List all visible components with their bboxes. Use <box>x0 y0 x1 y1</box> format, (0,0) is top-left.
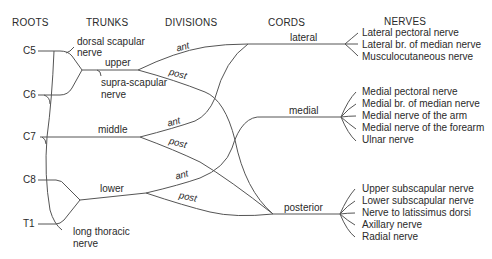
nerve-axillary: Axillary nerve <box>362 219 474 231</box>
nerve-ulnar: Ulnar nerve <box>362 134 484 146</box>
suprascapular-label-1: supra-scapular <box>101 77 167 88</box>
dorsal-scapular-hook <box>66 47 74 53</box>
nerve-medial-forearm: Medial nerve of the forearm <box>362 122 484 134</box>
lower-post-division <box>146 193 273 216</box>
header-nerves: NERVES <box>384 16 426 27</box>
upper-ant-division <box>138 44 248 70</box>
c8-root-line <box>38 180 80 200</box>
trunk-lower: lower <box>100 183 124 194</box>
middle-ant-division <box>140 44 248 137</box>
cord-medial: medial <box>289 105 318 116</box>
long-thoracic-label-1: long thoracic <box>73 226 130 237</box>
root-c8: C8 <box>23 174 36 185</box>
header-roots: ROOTS <box>12 17 49 28</box>
header-cords: CORDS <box>268 17 305 28</box>
c7-hook <box>42 137 46 144</box>
nerve-medial-pectoral: Medial pectoral nerve <box>362 86 484 98</box>
nerve-lateral-br-median: Lateral br. of median nerve <box>362 39 481 51</box>
header-divisions: DIVISIONS <box>165 17 217 28</box>
suprascapular-hook <box>97 70 101 76</box>
upper-post-division <box>138 70 273 214</box>
dorsal-scapular-label-1: dorsal scapular <box>77 36 145 47</box>
lateral-nerves-list: Lateral pectoral nerve Lateral br. of me… <box>362 27 481 63</box>
cord-posterior: posterior <box>284 202 323 213</box>
t1-root-line <box>38 200 80 224</box>
root-c6: C6 <box>23 89 36 100</box>
nerve-upper-subscapular: Upper subscapular nerve <box>362 183 474 195</box>
c6-root-line <box>38 70 82 95</box>
suprascapular-label-2: nerve <box>101 89 126 100</box>
trunk-middle: middle <box>98 124 127 135</box>
long-thoracic-label-2: nerve <box>73 238 98 249</box>
nerve-lateral-pectoral: Lateral pectoral nerve <box>362 27 481 39</box>
lower-trunk-line <box>80 193 146 200</box>
header-trunks: TRUNKS <box>86 17 128 28</box>
nerve-latissimus-dorsi: Nerve to latissimus dorsi <box>362 207 474 219</box>
nerve-medial-br-median: Medial br. of median nerve <box>362 98 484 110</box>
c5-root-line <box>38 51 82 70</box>
nerve-musculocutaneous: Musculocutaneous nerve <box>362 51 481 63</box>
lower-ant-division <box>146 117 262 193</box>
root-c7: C7 <box>23 131 36 142</box>
cord-lateral: lateral <box>290 32 317 43</box>
dorsal-scapular-label-2: nerve <box>77 47 102 58</box>
nerve-medial-arm: Medial nerve of the arm <box>362 110 484 122</box>
c6-hook <box>44 95 50 104</box>
posterior-nerves-list: Upper subscapular nerve Lower subscapula… <box>362 183 474 243</box>
nerve-radial: Radial nerve <box>362 231 474 243</box>
root-c5: C5 <box>23 45 36 56</box>
trunk-upper: upper <box>105 57 131 68</box>
nerve-lower-subscapular: Lower subscapular nerve <box>362 195 474 207</box>
long-thoracic-line <box>46 51 62 230</box>
root-t1: T1 <box>23 218 35 229</box>
medial-nerves-list: Medial pectoral nerve Medial br. of medi… <box>362 86 484 146</box>
